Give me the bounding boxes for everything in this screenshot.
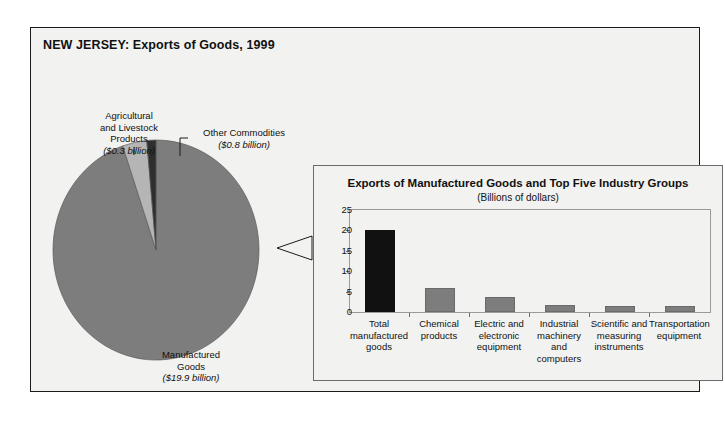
bar [665, 306, 695, 312]
pie-label-agricultural-line2: and Livestock [69, 122, 189, 134]
x-tick-label-line: Transportation [649, 318, 709, 330]
x-tick-label: Transportationequipment [649, 318, 709, 341]
figure-page: NEW JERSEY: Exports of Goods, 1999 Agric… [0, 0, 725, 421]
x-tick-label: Totalmanufacturedgoods [349, 318, 409, 353]
x-tick-label-line: products [409, 330, 469, 342]
x-tick-label-line: instruments [589, 341, 649, 353]
y-tick-label: 20 [330, 224, 352, 235]
x-tick-label: Chemicalproducts [409, 318, 469, 341]
x-tick-mark [469, 313, 470, 317]
x-tick-label-line: computers [529, 353, 589, 365]
x-tick-mark [589, 313, 590, 317]
y-tick-label: 25 [330, 204, 352, 215]
bar [425, 288, 455, 312]
x-tick-label-line: Chemical [409, 318, 469, 330]
pie-label-manufactured-amount: ($19.9 billion) [116, 372, 266, 384]
y-tick-label: 5 [330, 285, 352, 296]
bar-chart-panel: Exports of Manufactured Goods and Top Fi… [313, 165, 723, 381]
x-tick-label-line: measuring [589, 330, 649, 342]
bar [485, 297, 515, 312]
pie-label-agricultural: Agricultural and Livestock Products ($0.… [69, 110, 189, 156]
y-tick-label: 10 [330, 265, 352, 276]
pie-label-manufactured-line2: Goods [116, 361, 266, 373]
y-tick-label: 0 [330, 306, 352, 317]
figure-frame: NEW JERSEY: Exports of Goods, 1999 Agric… [30, 27, 700, 392]
x-tick-label-line: equipment [469, 341, 529, 353]
pie-label-manufactured-line1: Manufactured [116, 349, 266, 361]
x-tick-label: Industrialmachinery andcomputers [529, 318, 589, 364]
pie-label-agricultural-line3: Products [69, 133, 189, 145]
y-tick-label: 15 [330, 244, 352, 255]
x-tick-label-line: Electric and [469, 318, 529, 330]
x-tick-label-line: manufactured [349, 330, 409, 342]
pie-label-agricultural-amount: ($0.3 billion) [69, 145, 189, 157]
x-tick-label-line: equipment [649, 330, 709, 342]
pie-label-manufactured: Manufactured Goods ($19.9 billion) [116, 349, 266, 384]
pie-label-other: Other Commodities ($0.8 billion) [179, 127, 309, 150]
x-tick-label-line: machinery and [529, 330, 589, 353]
x-tick-mark [529, 313, 530, 317]
x-tick-label-line: electronic [469, 330, 529, 342]
x-tick-mark [409, 313, 410, 317]
x-tick-label-line: Industrial [529, 318, 589, 330]
x-tick-label-line: goods [349, 341, 409, 353]
bar [545, 305, 575, 312]
bar-plot-area [349, 209, 711, 313]
pie-label-other-line1: Other Commodities [179, 127, 309, 139]
x-tick-label-line: Scientific and [589, 318, 649, 330]
pie-slices [53, 140, 259, 360]
bar-chart-subtitle: (Billions of dollars) [314, 192, 722, 203]
bar-chart-title: Exports of Manufactured Goods and Top Fi… [314, 177, 722, 189]
bar [365, 230, 395, 312]
x-tick-mark [649, 313, 650, 317]
pie-chart: Agricultural and Livestock Products ($0.… [31, 28, 321, 393]
pie-label-agricultural-line1: Agricultural [69, 110, 189, 122]
pie-label-other-amount: ($0.8 billion) [179, 139, 309, 151]
pie-chart-svg [31, 28, 321, 393]
bar [605, 306, 635, 312]
x-tick-label-line: Total [349, 318, 409, 330]
x-tick-label: Scientific andmeasuringinstruments [589, 318, 649, 353]
x-tick-label: Electric andelectronicequipment [469, 318, 529, 353]
